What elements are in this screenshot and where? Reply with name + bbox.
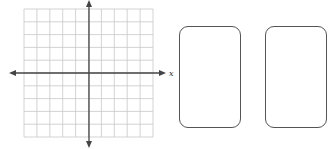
y-axis-down-arrow-icon — [86, 141, 92, 148]
axes — [9, 0, 166, 148]
card-2 — [265, 26, 327, 128]
x-axis-label: x — [169, 69, 174, 78]
x-axis-left-arrow-icon — [9, 70, 16, 76]
x-axis-right-arrow-icon — [159, 70, 166, 76]
card-1 — [179, 26, 241, 128]
y-axis-up-arrow-icon — [86, 0, 92, 7]
